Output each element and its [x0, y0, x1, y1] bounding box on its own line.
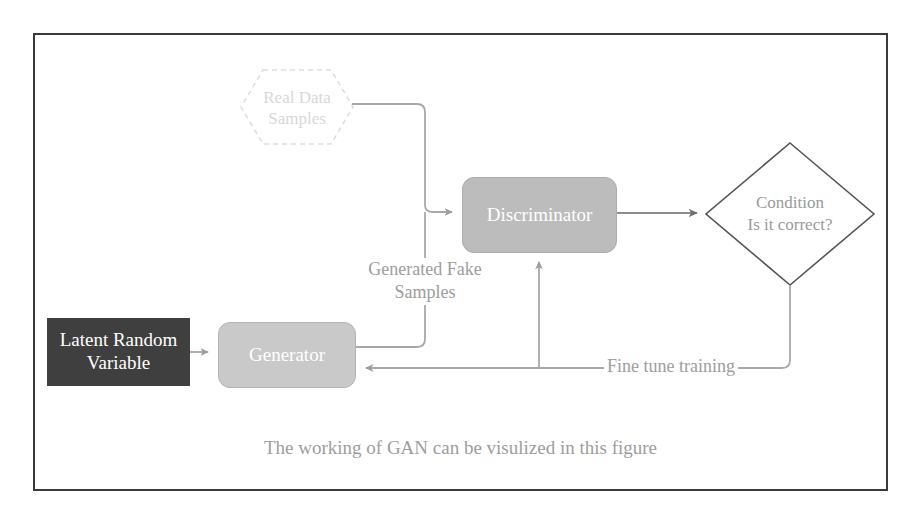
real-data-samples-node[interactable]: Real Data Samples — [241, 72, 353, 144]
latent-label-line1: Latent Random — [60, 329, 178, 350]
condition-node[interactable]: Condition Is it correct? — [706, 176, 874, 252]
condition-label-line2: Is it correct? — [748, 215, 833, 234]
latent-random-variable-node[interactable]: Latent Random Variable — [47, 318, 190, 386]
real-data-label-line1: Real Data — [263, 88, 331, 107]
diagram-canvas: Real Data Samples Discriminator Conditio… — [0, 0, 917, 522]
fine-tune-training-label: Fine tune training — [604, 355, 738, 378]
generator-node[interactable]: Generator — [218, 322, 356, 388]
latent-label-line2: Variable — [87, 352, 150, 373]
fake-samples-line1: Generated Fake — [368, 259, 481, 279]
fake-samples-line2: Samples — [395, 282, 456, 302]
discriminator-node[interactable]: Discriminator — [462, 177, 617, 253]
generator-label: Generator — [249, 344, 325, 367]
generated-fake-samples-label: Generated Fake Samples — [330, 258, 520, 305]
discriminator-label: Discriminator — [487, 204, 593, 227]
real-data-label-line2: Samples — [268, 109, 326, 128]
condition-label-line1: Condition — [756, 193, 824, 212]
figure-caption: The working of GAN can be visulized in t… — [33, 437, 888, 459]
